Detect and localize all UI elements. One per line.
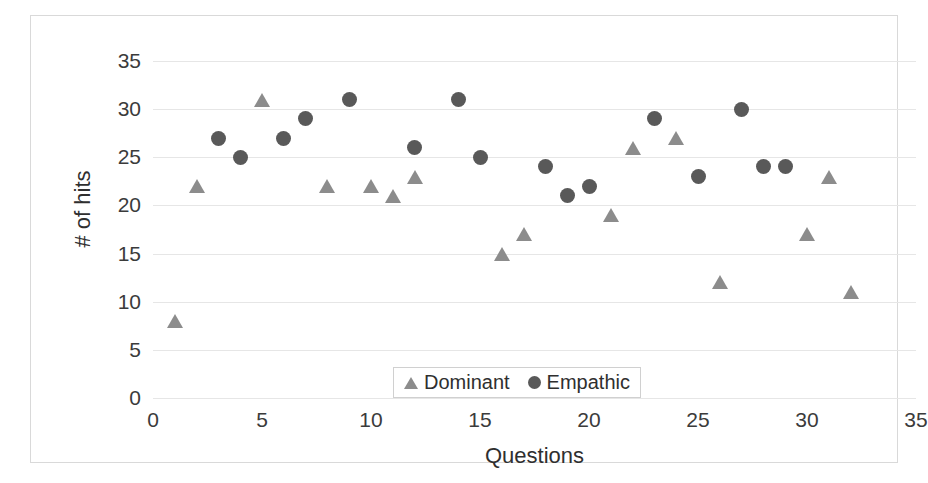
- gridline: [153, 350, 916, 351]
- x-axis-title: Questions: [153, 443, 916, 469]
- circle-marker-icon: [528, 376, 541, 389]
- data-point-circle: [451, 92, 466, 107]
- data-point-circle: [407, 140, 422, 155]
- x-tick-label: 0: [123, 409, 183, 430]
- gridline: [153, 109, 916, 110]
- data-point-triangle: [799, 227, 815, 241]
- data-point-circle: [538, 159, 553, 174]
- data-point-circle: [691, 169, 706, 184]
- gridline: [153, 398, 916, 399]
- x-tick-label: 25: [668, 409, 728, 430]
- data-point-circle: [298, 111, 313, 126]
- x-tick-label: 35: [886, 409, 928, 430]
- y-axis-title: # of hits: [70, 139, 96, 279]
- legend-label-dominant: Dominant: [424, 371, 510, 394]
- x-tick-label: 30: [777, 409, 837, 430]
- chart-legend: Dominant Empathic: [393, 367, 641, 398]
- data-point-triangle: [254, 93, 270, 107]
- legend-entry-dominant: Dominant: [404, 371, 510, 394]
- data-point-circle: [647, 111, 662, 126]
- data-point-triangle: [385, 189, 401, 203]
- data-point-triangle: [167, 314, 183, 328]
- y-tick-label: 10: [95, 291, 141, 312]
- data-point-triangle: [363, 179, 379, 193]
- data-point-triangle: [843, 285, 859, 299]
- data-point-triangle: [319, 179, 335, 193]
- data-point-circle: [211, 131, 226, 146]
- legend-entry-empathic: Empathic: [528, 371, 630, 394]
- y-tick-label: 35: [95, 50, 141, 71]
- y-tick-label: 5: [95, 339, 141, 360]
- x-tick-label: 15: [450, 409, 510, 430]
- legend-label-empathic: Empathic: [547, 371, 630, 394]
- data-point-triangle: [625, 141, 641, 155]
- data-point-triangle: [668, 131, 684, 145]
- data-point-circle: [560, 188, 575, 203]
- gridline: [153, 157, 916, 158]
- data-point-triangle: [603, 208, 619, 222]
- gridline: [153, 61, 916, 62]
- y-tick-label: 20: [95, 194, 141, 215]
- gridline: [153, 302, 916, 303]
- data-point-triangle: [821, 170, 837, 184]
- scatter-chart-figure: 05101520253035 # of hits 05101520253035 …: [0, 0, 928, 483]
- triangle-marker-icon: [404, 377, 418, 389]
- y-tick-label: 15: [95, 243, 141, 264]
- data-point-circle: [276, 131, 291, 146]
- y-tick-label: 0: [95, 387, 141, 408]
- data-point-triangle: [189, 179, 205, 193]
- data-point-triangle: [407, 170, 423, 184]
- x-tick-label: 5: [232, 409, 292, 430]
- plot-area: [153, 61, 916, 398]
- gridline: [153, 254, 916, 255]
- data-point-circle: [756, 159, 771, 174]
- x-tick-label: 10: [341, 409, 401, 430]
- data-point-circle: [582, 179, 597, 194]
- data-point-triangle: [516, 227, 532, 241]
- gridline: [153, 205, 916, 206]
- data-point-triangle: [712, 275, 728, 289]
- x-tick-label: 20: [559, 409, 619, 430]
- chart-frame: 05101520253035 # of hits 05101520253035 …: [30, 15, 898, 463]
- y-tick-label: 30: [95, 98, 141, 119]
- data-point-circle: [778, 159, 793, 174]
- y-tick-label: 25: [95, 146, 141, 167]
- data-point-circle: [342, 92, 357, 107]
